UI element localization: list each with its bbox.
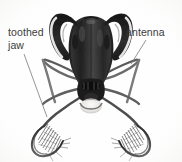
annotation-label-toothed-jaw: toothed jaw — [8, 26, 44, 51]
annotation-toothed-jaw-line2: jaw — [8, 39, 44, 52]
specimen-illustration — [0, 0, 182, 162]
annotation-toothed-jaw-line1: toothed — [8, 26, 44, 39]
insect-anatomy-figure: toothed jaw antenna — [0, 0, 182, 162]
annotation-label-antenna: antenna — [126, 26, 165, 39]
annotation-antenna-line1: antenna — [126, 26, 165, 39]
